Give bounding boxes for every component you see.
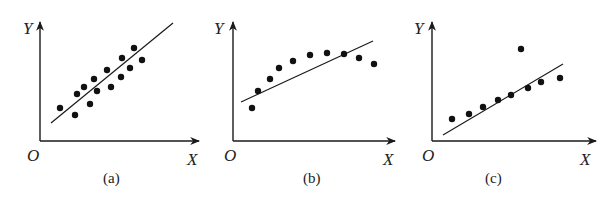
y-axis-label: Y: [23, 19, 34, 38]
data-point: [119, 55, 125, 61]
trend-line: [51, 23, 173, 123]
data-point: [74, 91, 80, 97]
data-point: [108, 84, 114, 90]
data-point: [139, 57, 145, 63]
data-point: [131, 45, 137, 51]
panel-caption: (b): [303, 170, 321, 187]
x-axis-label: X: [186, 150, 198, 169]
points: [249, 50, 377, 111]
data-point: [341, 51, 347, 57]
data-point: [495, 97, 501, 103]
origin-label: O: [27, 146, 39, 165]
figure-canvas: Y O X (a) Y O X (b) Y O X (c): [0, 0, 607, 203]
panel-caption: (a): [103, 170, 120, 187]
x-axis-label: X: [579, 150, 591, 169]
x-axis-label: X: [382, 150, 394, 169]
data-point: [449, 116, 455, 122]
data-point: [324, 50, 330, 56]
data-point: [371, 61, 377, 67]
data-point: [518, 46, 524, 52]
data-point: [249, 105, 255, 111]
origin-label: O: [422, 146, 434, 165]
data-point: [466, 111, 472, 117]
panel-caption: (c): [485, 170, 502, 187]
data-point: [91, 76, 97, 82]
panel-c: Y O X (c): [414, 19, 596, 187]
data-point: [307, 52, 313, 58]
points: [449, 46, 563, 122]
data-point: [480, 104, 486, 110]
data-point: [276, 65, 282, 71]
y-axis-label: Y: [414, 19, 425, 38]
data-point: [87, 101, 93, 107]
trend-line: [241, 41, 373, 102]
data-point: [118, 74, 124, 80]
data-point: [356, 55, 362, 61]
panel-a: Y O X (a): [23, 19, 199, 187]
data-point: [94, 88, 100, 94]
data-point: [255, 88, 261, 94]
origin-label: O: [224, 146, 236, 165]
trend-line: [443, 64, 563, 135]
data-point: [538, 79, 544, 85]
data-point: [267, 76, 273, 82]
data-point: [557, 75, 563, 81]
data-point: [81, 84, 87, 90]
y-axis-label: Y: [214, 19, 225, 38]
panel-b: Y O X (b): [214, 19, 395, 187]
data-point: [72, 112, 78, 118]
data-point: [508, 92, 514, 98]
data-point: [127, 65, 133, 71]
data-point: [57, 105, 63, 111]
data-point: [525, 85, 531, 91]
data-point: [290, 58, 296, 64]
scatter-figure: Y O X (a) Y O X (b) Y O X (c): [0, 0, 607, 203]
data-point: [104, 67, 110, 73]
